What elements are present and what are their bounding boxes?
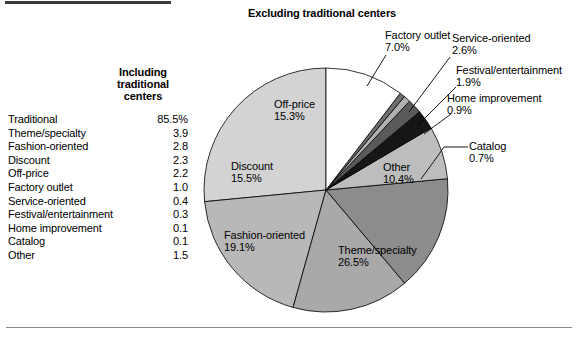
pie-label-discount-name: Discount (231, 160, 273, 172)
pie-label-festival-entertainment: Festival/entertainment 1.9% (456, 64, 562, 89)
pie-label-catalog-name: Catalog (469, 140, 506, 152)
pie-label-fashion-oriented-name: Fashion-oriented (224, 229, 305, 241)
pie-label-fashion-oriented-pct: 19.1% (224, 241, 305, 253)
pie-label-other-pct: 10.4% (383, 173, 414, 185)
pie-label-service-oriented-name: Service-oriented (452, 32, 531, 44)
figure-container: Including traditional centers Traditiona… (0, 0, 579, 340)
pie-label-factory-outlet-name: Factory outlet (385, 29, 450, 41)
pie-label-other-name: Other (383, 161, 410, 173)
pie-label-theme-specialty: Theme/specialty 26.5% (338, 244, 417, 269)
pie-label-catalog: Catalog 0.7% (469, 140, 506, 165)
pie-slice-group (204, 68, 448, 312)
pie-label-catalog-pct: 0.7% (469, 152, 506, 164)
pie-label-home-improvement-pct: 0.9% (447, 104, 541, 116)
pie-label-other: Other 10.4% (383, 161, 414, 186)
pie-label-service-oriented: Service-oriented 2.6% (452, 32, 531, 57)
pie-label-theme-specialty-name: Theme/specialty (338, 244, 417, 256)
pie-label-festival-entertainment-name: Festival/entertainment (456, 64, 562, 76)
pie-label-off-price-name: Off-price (274, 98, 315, 110)
pie-label-off-price-pct: 15.3% (274, 110, 315, 122)
pie-label-factory-outlet: Factory outlet 7.0% (385, 29, 450, 54)
pie-label-home-improvement: Home improvement 0.9% (447, 92, 541, 117)
pie-label-discount: Discount 15.5% (231, 160, 273, 185)
pie-label-theme-specialty-pct: 26.5% (338, 256, 417, 268)
pie-label-discount-pct: 15.5% (231, 172, 273, 184)
pie-label-fashion-oriented: Fashion-oriented 19.1% (224, 229, 305, 254)
pie-label-festival-entertainment-pct: 1.9% (456, 76, 562, 88)
pie-label-home-improvement-name: Home improvement (447, 92, 541, 104)
pie-label-off-price: Off-price 15.3% (274, 98, 315, 123)
leader-line-service-oriented (409, 57, 450, 112)
pie-label-service-oriented-pct: 2.6% (452, 44, 531, 56)
pie-label-factory-outlet-pct: 7.0% (385, 41, 450, 53)
